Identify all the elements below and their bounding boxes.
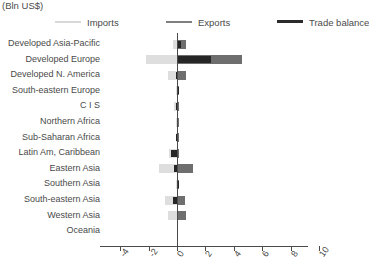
- x-axis-tick-label: 0: [175, 249, 186, 259]
- zero-baseline: [177, 33, 178, 247]
- legend-swatch-trade-balance-icon: [277, 20, 303, 23]
- category-label: South-eastern Asia: [0, 194, 100, 204]
- category-label: Developed Europe: [0, 54, 100, 64]
- bar-trade-balance: [177, 56, 211, 63]
- x-axis-tick-label: 8: [289, 249, 300, 259]
- legend-item-imports: Imports: [55, 13, 119, 27]
- legend-label-trade-balance: Trade balance: [309, 17, 369, 28]
- chart-legend: Imports Exports Trade balance: [55, 13, 322, 27]
- category-label: Developed N. America: [0, 69, 100, 79]
- legend-swatch-imports-icon: [55, 21, 81, 23]
- category-label: Western Asia: [0, 210, 100, 220]
- category-label: Eastern Asia: [0, 163, 100, 173]
- legend-item-trade-balance: Trade balance: [277, 13, 369, 27]
- bar-exports: [177, 71, 186, 80]
- category-label: Sub-Saharan Africa: [0, 132, 100, 142]
- bar-exports: [177, 211, 186, 220]
- category-label: Oceania: [0, 225, 100, 235]
- x-axis-tick-label: 2: [203, 249, 214, 259]
- bar-imports: [168, 211, 177, 220]
- chart-title-clipped: [0, 0, 322, 3]
- bar-exports: [177, 196, 185, 205]
- x-axis-tick-label: 4: [232, 249, 243, 259]
- legend-label-imports: Imports: [87, 17, 119, 28]
- category-label: Northern Africa: [0, 116, 100, 126]
- unit-label: (Bln US$): [2, 0, 43, 11]
- x-axis-line: [100, 246, 308, 247]
- category-label: Latin Am, Caribbean: [0, 147, 100, 157]
- category-label: C I S: [0, 100, 100, 110]
- x-axis-tick-label: 6: [260, 249, 271, 259]
- category-label: South-eastern Europe: [0, 85, 100, 95]
- category-label: Developed Asia-Pacific: [0, 38, 100, 48]
- x-axis: -4-20246810: [0, 246, 322, 279]
- bar-imports: [146, 55, 177, 64]
- legend-swatch-exports-icon: [166, 21, 192, 23]
- legend-label-exports: Exports: [198, 17, 230, 28]
- plot-area: Developed Asia-PacificDeveloped EuropeDe…: [0, 33, 322, 246]
- category-label: Southern Asia: [0, 178, 100, 188]
- x-axis-tick-label: -4: [118, 246, 131, 258]
- bar-exports: [177, 164, 193, 173]
- legend-item-exports: Exports: [166, 13, 230, 27]
